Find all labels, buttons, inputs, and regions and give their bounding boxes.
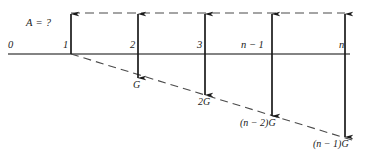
period-label-n-minus-1: n − 1 (241, 40, 264, 51)
period-label-0: 0 (8, 40, 13, 51)
period-label-3: 3 (197, 40, 202, 51)
period-label-1: 1 (63, 40, 68, 51)
period-label-2: 2 (130, 40, 135, 51)
gradient-label-2g: 2G (198, 97, 210, 107)
unknown-amount-label: A = ? (26, 18, 51, 29)
gradient-label-g: G (133, 80, 140, 90)
gradient-dashed-line (71, 54, 352, 140)
cash-flow-diagram: A = ? 0 1 2 3 n − 1 n G 2G (n − 2)G (n −… (0, 0, 367, 164)
gradient-label-n-minus-1-g: (n − 1)G (313, 139, 349, 149)
gradient-label-n-minus-2-g: (n − 2)G (240, 118, 276, 128)
period-label-n: n (339, 40, 344, 51)
diagram-canvas (0, 0, 367, 164)
